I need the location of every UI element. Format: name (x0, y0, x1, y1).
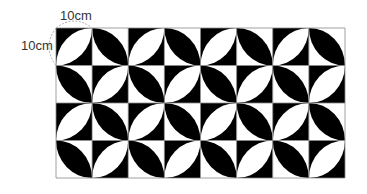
tile-pattern (0, 0, 367, 194)
height-label: 10cm (21, 38, 53, 53)
width-label: 10cm (60, 8, 92, 23)
